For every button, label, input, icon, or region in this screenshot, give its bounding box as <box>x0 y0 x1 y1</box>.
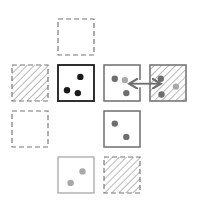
cell-border <box>58 157 94 193</box>
particle-dot <box>67 180 73 186</box>
particle-dot <box>158 91 164 97</box>
particle-dot <box>123 90 129 96</box>
particle-dot <box>75 90 81 96</box>
hatch-fill <box>104 157 140 193</box>
particle-dot <box>122 77 128 83</box>
particle-dot <box>123 134 129 140</box>
cell-r0-c1 <box>58 19 94 55</box>
cell-r2-c2 <box>104 111 140 147</box>
particle-dot <box>77 74 83 80</box>
cell-r1-c1 <box>58 65 94 101</box>
cell-r3-c1 <box>58 157 94 193</box>
cell-grid-diagram <box>0 0 197 211</box>
particle-dot <box>79 168 85 174</box>
particle-dot <box>64 87 70 93</box>
particle-dot <box>173 83 179 89</box>
cell-r3-c2 <box>104 157 140 193</box>
particle-dot <box>112 75 118 81</box>
cell-border <box>104 111 140 147</box>
cell-border <box>12 111 48 147</box>
cell-r1-c0 <box>12 65 48 101</box>
cell-r2-c0 <box>12 111 48 147</box>
particle-dot <box>158 75 164 81</box>
cell-border <box>58 19 94 55</box>
particle-dot <box>112 120 118 126</box>
hatch-fill <box>12 65 48 101</box>
